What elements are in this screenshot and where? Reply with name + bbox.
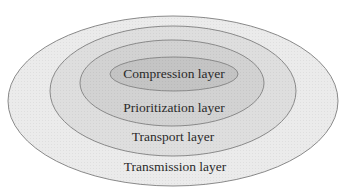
prioritization-layer-label: Prioritization layer bbox=[123, 100, 225, 115]
compression-layer: Compression layer bbox=[110, 57, 238, 91]
compression-layer-label: Compression layer bbox=[123, 66, 225, 81]
transmission-layer-label: Transmission layer bbox=[124, 159, 227, 174]
layer-diagram: Transmission layer Transport layer Prior… bbox=[0, 0, 346, 188]
transport-layer-label: Transport layer bbox=[132, 129, 215, 144]
